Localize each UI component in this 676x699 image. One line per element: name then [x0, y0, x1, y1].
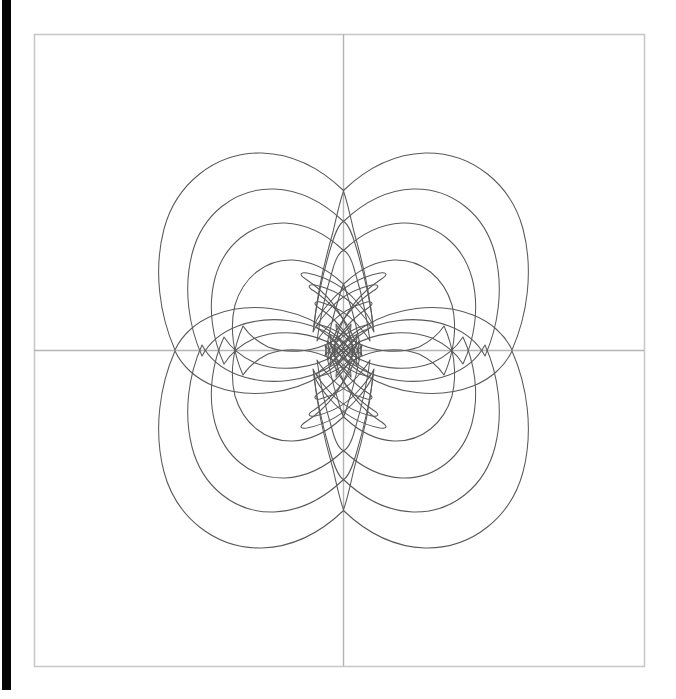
- contour-plot: [0, 0, 676, 699]
- figure-canvas: [0, 0, 676, 699]
